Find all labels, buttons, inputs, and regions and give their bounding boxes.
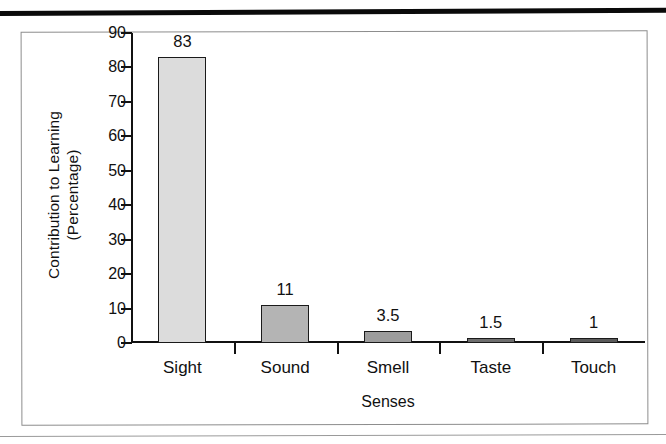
bar-chart: Contribution to Learning (Percentage) 01… bbox=[0, 0, 666, 444]
y-axis-tick-labels: 0102030405060708090 bbox=[84, 33, 126, 342]
bar-sound bbox=[261, 305, 309, 343]
bar-smell bbox=[364, 331, 412, 343]
x-axis-tick-label-sound: Sound bbox=[235, 358, 335, 378]
bar-value-label: 1.5 bbox=[451, 314, 531, 331]
bar-value-label: 11 bbox=[245, 281, 325, 298]
y-axis-tick bbox=[121, 66, 132, 68]
y-axis-tick-label: 90 bbox=[84, 25, 126, 41]
y-axis-tick bbox=[121, 308, 132, 310]
y-axis-title: Contribution to Learning (Percentage) bbox=[44, 40, 82, 350]
x-axis-tick-label-sight: Sight bbox=[132, 358, 232, 378]
bar-value-label: 3.5 bbox=[348, 307, 428, 324]
y-axis-tick bbox=[121, 170, 132, 172]
y-axis-tick-label: 40 bbox=[84, 197, 126, 213]
y-axis-tick-label: 0 bbox=[84, 335, 126, 351]
y-axis-tick bbox=[121, 135, 132, 137]
y-axis-tick-label: 30 bbox=[84, 232, 126, 248]
bar-sight bbox=[158, 57, 206, 343]
x-axis-tick-label-taste: Taste bbox=[441, 358, 541, 378]
bar-touch bbox=[570, 338, 618, 343]
bar-taste bbox=[467, 338, 515, 343]
y-axis-tick-label: 10 bbox=[84, 301, 126, 317]
x-axis-tick bbox=[234, 343, 236, 354]
y-axis-tick-label: 80 bbox=[84, 59, 126, 75]
x-axis-tick bbox=[439, 343, 441, 354]
y-axis-tick bbox=[121, 204, 132, 206]
y-axis-tick-label: 60 bbox=[84, 128, 126, 144]
y-axis-tick-label: 20 bbox=[84, 266, 126, 282]
y-axis-title-line1: Contribution to Learning bbox=[44, 40, 63, 350]
bar-value-label: 1 bbox=[554, 314, 634, 331]
y-axis-tick-label: 70 bbox=[84, 94, 126, 110]
y-axis-title-line2: (Percentage) bbox=[63, 40, 82, 350]
x-axis-title: Senses bbox=[131, 392, 645, 411]
y-axis-tick bbox=[121, 32, 132, 34]
x-axis-tick bbox=[337, 343, 339, 354]
y-axis-tick bbox=[121, 342, 132, 344]
x-axis-tick bbox=[542, 343, 544, 354]
x-axis-tick-label-touch: Touch bbox=[544, 358, 644, 378]
plot-area bbox=[131, 33, 645, 343]
y-axis-tick bbox=[121, 273, 132, 275]
bar-value-label: 83 bbox=[142, 33, 222, 50]
y-axis-tick bbox=[121, 101, 132, 103]
y-axis-tick bbox=[121, 239, 132, 241]
y-axis-tick-label: 50 bbox=[84, 163, 126, 179]
x-axis-tick-label-smell: Smell bbox=[338, 358, 438, 378]
